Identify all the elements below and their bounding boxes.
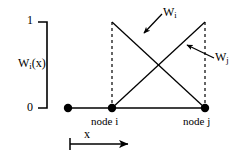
node-j-dot (201, 104, 209, 112)
curve-label-wj-subscript: j (226, 55, 228, 65)
y-tick-label-zero: 0 (27, 101, 33, 113)
curve-label-wi-symbol: W (163, 5, 174, 19)
x-axis-label: x (84, 128, 90, 140)
y-axis-label-symbol: W (18, 56, 29, 70)
curve-label-wj: Wj (215, 51, 229, 65)
y-tick-label-one: 1 (27, 14, 33, 26)
node-i-label: node i (91, 116, 118, 127)
node-j-label: node j (183, 116, 210, 127)
figure-canvas: 1 0 Wi(x) Wi Wj node i node j x (0, 0, 241, 158)
origin-node-dot (64, 104, 72, 112)
x-direction-arrow (70, 138, 128, 150)
wj-arrow (187, 45, 214, 58)
curve-label-wi-subscript: i (174, 10, 176, 20)
y-axis-label-argument: (x) (32, 56, 46, 70)
node-i-dot (108, 104, 116, 112)
curve-label-wi: Wi (163, 6, 177, 20)
wi-arrow (144, 14, 162, 33)
shape-function-diagram (0, 0, 241, 158)
y-axis-label: Wi(x) (18, 57, 46, 71)
curve-label-wj-symbol: W (215, 50, 226, 64)
